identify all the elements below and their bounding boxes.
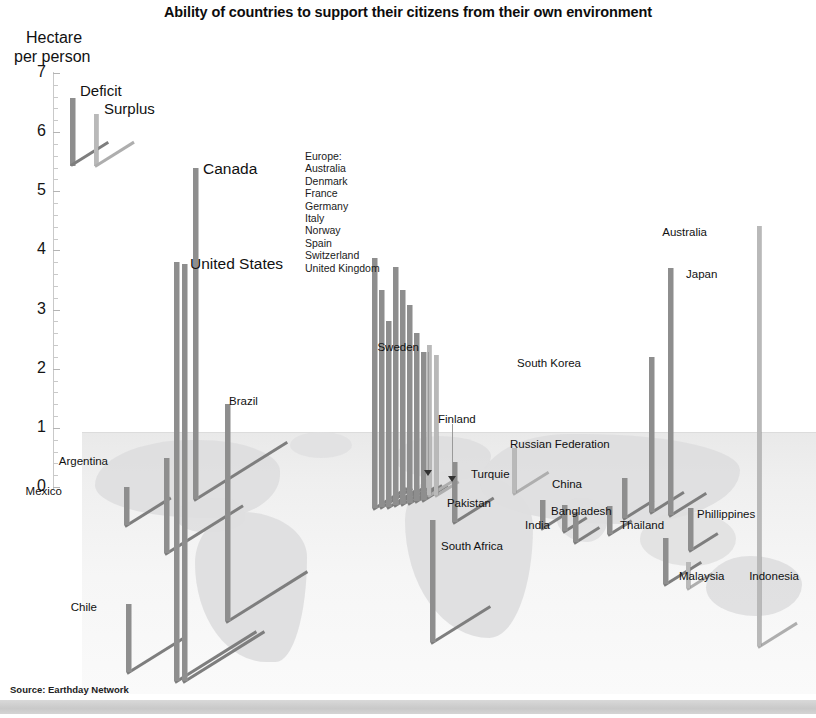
bar-australia[interactable]: [757, 226, 761, 646]
legend: Deficit Surplus: [62, 76, 242, 186]
y-minor-tick: [53, 239, 58, 240]
bar-argentina[interactable]: [164, 458, 169, 553]
country-label-south-africa: South Africa: [441, 540, 503, 552]
y-minor-tick: [53, 156, 58, 157]
y-axis-line: [53, 72, 54, 489]
europe-group-member-united-kingdom: United Kingdom: [305, 262, 380, 274]
bar-chile[interactable]: [126, 604, 131, 672]
country-label-south-korea: South Korea: [517, 357, 581, 369]
finland-pointer-arrow: [448, 476, 456, 482]
y-tick-label-5: 5: [20, 181, 46, 199]
europe-group-member-norway: Norway: [305, 224, 380, 236]
bar-south-korea[interactable]: [649, 357, 654, 512]
europe-group-member-australia: Australia: [305, 162, 380, 174]
bar-indonesia[interactable]: [663, 538, 668, 584]
bar-eu-6[interactable]: [414, 333, 419, 501]
y-tick-2: [53, 369, 60, 370]
legend-deficit-label: Deficit: [80, 82, 122, 99]
y-tick-4: [53, 250, 60, 251]
y-tick-3: [53, 310, 60, 311]
landmass-greenland: [290, 432, 352, 458]
page-title: Ability of countries to support their ci…: [0, 4, 816, 20]
bar-eu-1[interactable]: [379, 290, 384, 507]
y-minor-tick: [53, 120, 58, 121]
y-minor-tick: [53, 404, 58, 405]
europe-group-heading: Europe:: [305, 150, 380, 162]
country-label-chile: Chile: [71, 601, 97, 613]
country-label-india: India: [525, 519, 550, 531]
y-minor-tick: [53, 416, 58, 417]
bar-eu-5[interactable]: [407, 305, 412, 503]
y-tick-label-6: 6: [20, 122, 46, 140]
y-minor-tick: [53, 452, 58, 453]
y-minor-tick: [53, 381, 58, 382]
y-tick-label-3: 3: [20, 300, 46, 318]
y-minor-tick: [53, 97, 58, 98]
y-tick-label-4: 4: [20, 240, 46, 258]
y-minor-tick: [53, 179, 58, 180]
bar-eu-3[interactable]: [393, 267, 398, 505]
country-label-brazil: Brazil: [229, 395, 258, 407]
bar-eu-7[interactable]: [421, 352, 426, 500]
bar-eu-uk[interactable]: [372, 258, 377, 508]
y-minor-tick: [53, 440, 58, 441]
bar-canada[interactable]: [193, 168, 198, 499]
europe-group-list: Europe:AustraliaDenmarkFranceGermanyItal…: [305, 150, 380, 274]
europe-group-member-spain: Spain: [305, 237, 380, 249]
country-label-sweden: Sweden: [377, 341, 419, 353]
y-minor-tick: [53, 321, 58, 322]
bar-mexico[interactable]: [124, 487, 129, 525]
y-axis-title-line1: Hectare: [26, 28, 82, 47]
y-minor-tick: [53, 463, 58, 464]
y-minor-tick: [53, 345, 58, 346]
sweden-pointer-line: [428, 352, 429, 472]
y-tick-label-7: 7: [20, 63, 46, 81]
y-tick-label-2: 2: [20, 359, 46, 377]
legend-surplus-bar: [94, 114, 98, 166]
bar-brazil[interactable]: [225, 404, 230, 621]
country-label-china: China: [552, 478, 582, 490]
y-minor-tick: [53, 274, 58, 275]
country-label-australia: Australia: [662, 226, 707, 238]
country-label-malaysia: Malaysia: [679, 570, 724, 582]
country-label-phillippines: Phillippines: [697, 508, 755, 520]
bar-russia[interactable]: [512, 448, 516, 493]
europe-group-member-denmark: Denmark: [305, 175, 380, 187]
y-minor-tick: [53, 357, 58, 358]
country-label-united-states: United States: [190, 255, 283, 273]
legend-surplus-label: Surplus: [104, 100, 155, 117]
y-minor-tick: [53, 262, 58, 263]
y-minor-tick: [53, 215, 58, 216]
europe-group-member-switzerland: Switzerland: [305, 249, 380, 261]
landmass-australia: [706, 556, 802, 616]
y-minor-tick: [53, 168, 58, 169]
finland-pointer-line: [452, 424, 453, 478]
bar-usa-b[interactable]: [182, 264, 187, 681]
y-minor-tick: [53, 108, 58, 109]
y-tick-7: [53, 73, 60, 74]
bar-china[interactable]: [622, 478, 627, 518]
country-label-finland: Finland: [438, 413, 476, 425]
bar-eu-4[interactable]: [400, 290, 405, 504]
y-minor-tick: [53, 85, 58, 86]
y-minor-tick: [53, 475, 58, 476]
bar-phillippines[interactable]: [688, 508, 693, 550]
source-note: Source: Earthday Network: [10, 684, 129, 695]
bar-finland[interactable]: [434, 355, 438, 495]
bar-south-africa[interactable]: [430, 520, 435, 642]
y-minor-tick: [53, 333, 58, 334]
chart-root: Ability of countries to support their ci…: [0, 0, 816, 718]
y-minor-tick: [53, 203, 58, 204]
country-label-pakistan: Pakistan: [447, 497, 491, 509]
legend-deficit-bar: [70, 98, 75, 166]
bar-usa-a[interactable]: [174, 262, 179, 681]
europe-group-member-france: France: [305, 187, 380, 199]
country-label-mexico: Mexico: [26, 485, 62, 497]
country-label-russian-federation: Russian Federation: [510, 438, 610, 450]
sweden-pointer-arrow: [424, 470, 432, 476]
y-minor-tick: [53, 227, 58, 228]
country-label-bangladesh: Bangladesh: [551, 505, 612, 517]
country-label-thailand: Thailand: [620, 519, 664, 531]
country-label-argentina: Argentina: [59, 455, 108, 467]
bar-japan[interactable]: [668, 268, 673, 515]
